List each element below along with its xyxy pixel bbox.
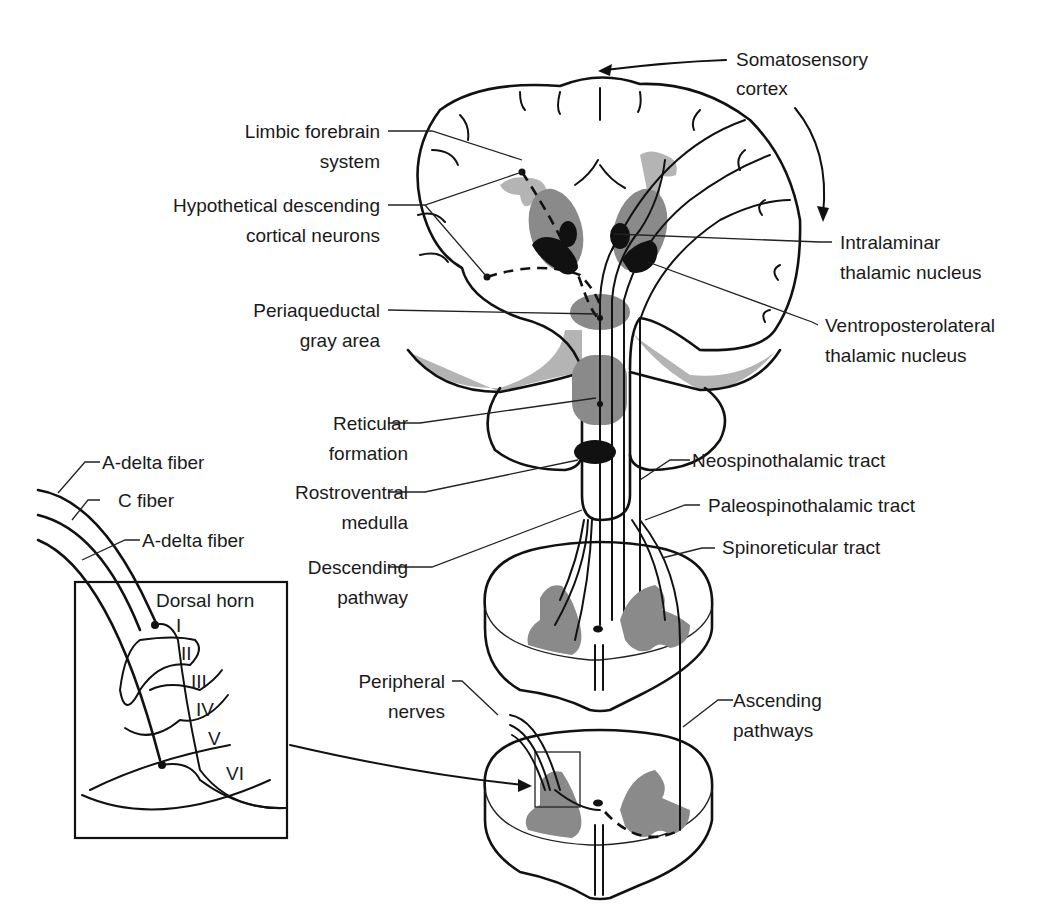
label-peripheral-2: nerves	[388, 701, 445, 722]
label-descending: Descending	[308, 557, 408, 578]
cerebellar-peduncle-right	[630, 330, 775, 390]
label-vpl-2: thalamic nucleus	[825, 345, 967, 366]
second-order-neuron-1	[155, 624, 285, 808]
rostroventral-medulla	[574, 440, 616, 464]
spinal-cord-upper	[485, 542, 713, 711]
label-paleospinothalamic: Paleospinothalamic tract	[708, 495, 916, 516]
label-lamina-II: II	[181, 643, 192, 664]
label-limbic: Limbic forebrain	[245, 121, 380, 142]
label-periaqueductal: Periaqueductal	[253, 300, 380, 321]
label-rostroventral: Rostroventral	[295, 482, 408, 503]
neuron-dot	[597, 315, 603, 321]
label-lamina-IV: IV	[196, 699, 214, 720]
label-lamina-I: I	[176, 615, 181, 636]
label-dorsal-horn: Dorsal horn	[156, 590, 254, 611]
leader-c-fiber	[72, 500, 100, 520]
a-delta-fiber-2	[38, 540, 160, 760]
leader-descending	[388, 510, 582, 567]
leader-paleospinothalamic	[645, 505, 700, 520]
c-fiber	[38, 515, 140, 630]
label-peripheral: Peripheral	[358, 671, 445, 692]
anterior-fissure	[595, 645, 603, 690]
central-canal	[593, 800, 603, 807]
leader-rostroventral	[388, 460, 578, 492]
pain-pathway-diagram: Somatosensory cortex Limbic forebrain sy…	[0, 0, 1061, 918]
cerebellar-peduncle-left	[408, 330, 582, 392]
label-limbic-2: system	[320, 151, 380, 172]
gray-matter-lower-left	[526, 771, 582, 838]
arrowhead	[518, 779, 532, 792]
somatosensory-arrow-top	[605, 60, 726, 70]
anterior-fissure	[595, 825, 603, 895]
label-somatosensory: Somatosensory	[736, 49, 869, 70]
label-descending-2: pathway	[337, 587, 408, 608]
label-rostroventral-2: medulla	[341, 512, 408, 533]
label-lamina-V: V	[208, 728, 221, 749]
label-intralaminar: Intralaminar	[840, 232, 941, 253]
leader-periaqueductal	[388, 310, 598, 314]
longitudinal-fissure	[575, 88, 625, 188]
label-hypothetical-2: cortical neurons	[246, 225, 380, 246]
leader-ascending	[683, 700, 733, 727]
label-lamina-VI: VI	[226, 763, 244, 784]
second-order-neuron-2	[162, 764, 285, 808]
label-spinoreticular: Spinoreticular tract	[722, 537, 881, 558]
label-ascending: Ascending	[733, 690, 822, 711]
label-hypothetical: Hypothetical descending	[173, 195, 380, 216]
spinal-cord-lower	[485, 715, 713, 899]
label-periaqueductal-2: gray area	[300, 330, 381, 351]
label-reticular: Reticular	[333, 413, 409, 434]
label-a-delta-fiber-1: A-delta fiber	[102, 452, 205, 473]
label-lamina-III: III	[191, 671, 207, 692]
arrowhead	[598, 64, 612, 76]
label-reticular-2: formation	[329, 443, 408, 464]
label-a-delta-fiber-2: A-delta fiber	[142, 530, 245, 551]
intralaminar-nucleus-left	[559, 221, 577, 247]
gray-matter-upper-left	[528, 585, 582, 655]
lamina-III	[150, 670, 222, 690]
leader-peripheral	[452, 681, 498, 715]
leader-a-delta-1	[58, 462, 100, 493]
arrowhead	[817, 206, 829, 222]
labels: Somatosensory cortex Limbic forebrain sy…	[102, 49, 995, 784]
neuron-dot	[597, 401, 603, 407]
label-neospinothalamic: Neospinothalamic tract	[692, 450, 886, 471]
label-intralaminar-2: thalamic nucleus	[840, 262, 982, 283]
leader-limbic	[388, 131, 522, 160]
label-vpl: Ventroposterolateral	[825, 315, 995, 336]
label-somatosensory-2: cortex	[736, 78, 788, 99]
label-c-fiber: C fiber	[118, 490, 175, 511]
label-ascending-2: pathways	[733, 720, 813, 741]
somatosensory-arrow-right	[795, 108, 824, 215]
lamina-VI	[82, 780, 270, 809]
central-canal	[593, 626, 603, 633]
